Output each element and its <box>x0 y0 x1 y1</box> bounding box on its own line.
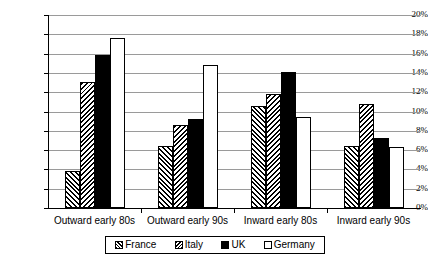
bar-italy-1 <box>173 125 188 208</box>
bar-france-1 <box>158 146 173 208</box>
legend-entry-france[interactable]: France <box>115 240 156 250</box>
bar-france-2 <box>251 106 266 208</box>
legend-swatch-france-icon <box>115 241 123 249</box>
legend-label: Germany <box>274 240 315 250</box>
chart-legend: FranceItalyUKGermany <box>105 236 325 254</box>
bar-france-3 <box>344 146 359 208</box>
bar-italy-0 <box>80 82 95 208</box>
bar-germany-1 <box>203 65 218 208</box>
bar-germany-2 <box>296 117 311 208</box>
bar-germany-0 <box>110 38 125 208</box>
legend-swatch-italy-icon <box>175 241 183 249</box>
legend-label: UK <box>231 240 245 250</box>
bar-uk-1 <box>188 119 203 208</box>
bar-group <box>141 15 234 208</box>
category-separator <box>141 208 142 213</box>
legend-swatch-uk-icon <box>221 241 229 249</box>
category-separator <box>234 208 235 213</box>
bar-france-0 <box>65 171 80 208</box>
bar-uk-0 <box>95 55 110 208</box>
bar-uk-3 <box>374 138 389 208</box>
bar-italy-2 <box>266 94 281 208</box>
category-label-2: Inward early 80s <box>234 215 327 227</box>
legend-entry-italy[interactable]: Italy <box>175 240 203 250</box>
category-label-3: Inward early 90s <box>327 215 420 227</box>
legend-entry-uk[interactable]: UK <box>221 240 245 250</box>
bar-group <box>327 15 420 208</box>
legend-swatch-germany-icon <box>264 241 272 249</box>
category-label-1: Outward early 90s <box>141 215 234 227</box>
bar-italy-3 <box>359 104 374 208</box>
bar-chart: 0%2%4%6%8%10%12%14%16%18%20% Outward ear… <box>0 0 428 267</box>
bar-group <box>234 15 327 208</box>
bar-germany-3 <box>389 147 404 208</box>
legend-entry-germany[interactable]: Germany <box>264 240 315 250</box>
bar-group <box>48 15 141 208</box>
legend-label: Italy <box>185 240 203 250</box>
category-label-0: Outward early 80s <box>48 215 141 227</box>
category-separator <box>327 208 328 213</box>
bar-uk-2 <box>281 72 296 208</box>
legend-label: France <box>125 240 156 250</box>
bars-layer <box>48 15 420 208</box>
